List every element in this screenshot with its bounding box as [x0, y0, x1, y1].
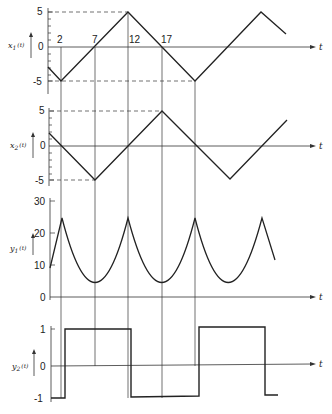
y-tick-10: 10: [34, 260, 46, 271]
time-guide-lines: [61, 12, 195, 398]
dashed-reference-lines: [48, 12, 195, 81]
y-tick-1: 1: [40, 324, 46, 335]
y-axis-label: x2(t): [10, 132, 35, 158]
marker-label-2: 2: [57, 34, 63, 45]
t-axis-arrow-icon: [310, 295, 316, 299]
y2-signal-line: [51, 327, 278, 398]
t-axis-arrow-icon: [310, 362, 316, 366]
y-tick-0: 0: [40, 292, 46, 303]
y1-signal-line: [50, 218, 275, 283]
panel-x1: t 5 0 -5 2 7 12 17 x1(t): [8, 6, 323, 94]
y-tick-30: 30: [34, 196, 46, 207]
y-tick-neg5: -5: [35, 175, 44, 186]
up-arrow-icon: [29, 32, 33, 37]
t-axis-label: t: [319, 42, 323, 52]
y-tick-0: 0: [40, 361, 46, 372]
t-axis-arrow-icon: [310, 144, 316, 148]
y-tick-0: 0: [40, 140, 46, 151]
panel-y2: t 1 0 -1 y2(t): [11, 324, 323, 404]
x2-signal-line: [49, 111, 287, 180]
y-axis-label: y2(t): [11, 349, 36, 376]
y-tick-neg1: -1: [34, 393, 43, 404]
x1-signal-line: [48, 12, 286, 81]
y-axis-ticks: [49, 111, 54, 180]
svg-text:y1(t): y1(t): [9, 244, 27, 254]
y-tick-neg5: -5: [33, 76, 42, 87]
t-axis-label: t: [319, 359, 323, 369]
t-axis: [51, 364, 313, 366]
y-tick-20: 20: [34, 228, 46, 239]
y-tick-5: 5: [39, 105, 45, 116]
svg-text:y2(t): y2(t): [11, 362, 29, 372]
up-arrow-icon: [32, 349, 36, 354]
t-axis-label: t: [319, 292, 323, 302]
t-axis-label: t: [319, 141, 323, 151]
svg-text:x2(t): x2(t): [10, 141, 27, 151]
panel-y1: t 30 20 10 0 y1(t): [9, 196, 323, 303]
marker-label-12: 12: [129, 34, 141, 45]
y-axis-label: x1(t): [8, 32, 33, 58]
up-arrow-icon: [31, 132, 35, 137]
y-axis-label: y1(t): [9, 233, 35, 255]
panel-x2: t 5 0 -5 x2(t): [10, 105, 323, 186]
svg-text:x1(t): x1(t): [8, 41, 25, 51]
signal-figure: t 5 0 -5 2 7 12 17 x1(t) t 5 0 -5 x2(: [0, 0, 332, 414]
y-tick-5: 5: [37, 6, 43, 17]
t-axis-arrow-icon: [310, 45, 316, 49]
dashed-reference-lines: [50, 111, 162, 180]
y-tick-0: 0: [38, 41, 44, 52]
marker-label-17: 17: [161, 34, 173, 45]
